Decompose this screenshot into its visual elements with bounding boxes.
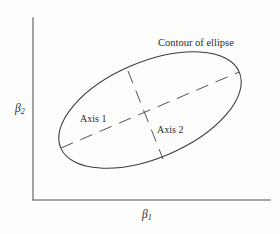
x-axis-label-subscript: 1 bbox=[148, 213, 152, 222]
minor-axis-dashed-line bbox=[128, 71, 163, 159]
major-axis-dashed-line bbox=[61, 72, 239, 148]
axis-2-label: Axis 2 bbox=[157, 125, 183, 135]
axis-1-label: Axis 1 bbox=[80, 114, 106, 124]
contour-annotation-label: Contour of ellipse bbox=[158, 38, 234, 49]
y-axis-label-subscript: 2 bbox=[21, 107, 25, 116]
y-axis-label: β2 bbox=[15, 103, 25, 116]
figure-canvas bbox=[0, 0, 280, 234]
x-axis-label: β1 bbox=[142, 209, 152, 222]
ellipse-contour-figure: Contour of ellipse Axis 1 Axis 2 β2 β1 bbox=[0, 0, 280, 234]
